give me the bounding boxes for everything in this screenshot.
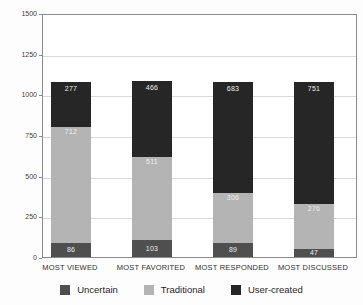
bar-segment-user-created: 277	[51, 82, 91, 127]
plot-area: 867122771035114668930668347276751	[42, 14, 357, 258]
legend: Uncertain Traditional User-created	[0, 284, 363, 295]
y-tick-mark	[39, 136, 42, 137]
bar-segment-traditional: 306	[213, 193, 253, 243]
legend-item-uncertain: Uncertain	[60, 284, 118, 295]
x-axis-category-label: MOST FAVORITED	[117, 263, 185, 272]
stacked-bar-chart: 867122771035114668930668347276751 025050…	[0, 0, 363, 305]
bar-segment-traditional: 511	[132, 157, 172, 240]
y-tick-mark	[39, 95, 42, 96]
bar-segment-uncertain: 103	[132, 240, 172, 257]
segment-value-label: 751	[294, 85, 334, 93]
segment-value-label: 47	[294, 249, 334, 257]
legend-item-traditional: Traditional	[144, 284, 205, 295]
bar-segment-user-created: 466	[132, 81, 172, 157]
legend-item-user-created: User-created	[231, 284, 303, 295]
bar-segment-traditional: 712	[51, 127, 91, 243]
segment-value-label: 86	[51, 246, 91, 254]
bar-segment-user-created: 751	[294, 82, 334, 204]
gridline	[43, 56, 356, 57]
bar-segment-uncertain: 89	[213, 243, 253, 257]
y-tick-label: 1250	[0, 51, 37, 59]
bar-segment-traditional: 276	[294, 204, 334, 249]
segment-value-label: 277	[51, 85, 91, 93]
y-tick-mark	[39, 258, 42, 259]
legend-label: User-created	[248, 284, 303, 295]
x-axis-category-label: MOST RESPONDED	[195, 263, 269, 272]
segment-value-label: 683	[213, 85, 253, 93]
bar-segment-uncertain: 86	[51, 243, 91, 257]
segment-value-label: 306	[213, 194, 253, 202]
y-tick-label: 750	[0, 132, 37, 140]
segment-value-label: 276	[294, 205, 334, 213]
x-axis-category-label: MOST DISCUSSED	[278, 263, 348, 272]
segment-value-label: 89	[213, 246, 253, 254]
legend-swatch-uncertain-icon	[60, 285, 70, 295]
segment-value-label: 511	[132, 158, 172, 166]
y-tick-label: 0	[0, 254, 37, 262]
bar-segment-user-created: 683	[213, 82, 253, 193]
y-tick-label: 1500	[0, 10, 37, 18]
segment-value-label: 466	[132, 84, 172, 92]
segment-value-label: 103	[132, 245, 172, 253]
y-tick-mark	[39, 217, 42, 218]
legend-swatch-traditional-icon	[144, 285, 154, 295]
y-tick-mark	[39, 55, 42, 56]
legend-label: Uncertain	[77, 284, 118, 295]
legend-swatch-user-created-icon	[231, 285, 241, 295]
segment-value-label: 712	[51, 128, 91, 136]
x-axis-category-label: MOST VIEWED	[42, 263, 97, 272]
y-tick-mark	[39, 14, 42, 15]
y-tick-label: 250	[0, 213, 37, 221]
legend-label: Traditional	[161, 284, 205, 295]
bar-segment-uncertain: 47	[294, 249, 334, 257]
y-tick-label: 500	[0, 173, 37, 181]
y-tick-label: 1000	[0, 91, 37, 99]
y-tick-mark	[39, 177, 42, 178]
